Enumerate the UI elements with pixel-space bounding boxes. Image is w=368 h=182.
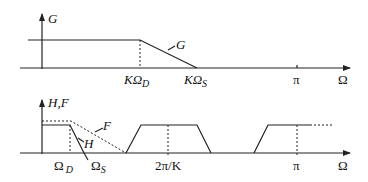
pi-label-bottom: π <box>293 158 300 173</box>
omega-s-label: ΩS <box>91 158 106 175</box>
g-curve-label: G <box>176 37 186 52</box>
top-plot: G G KΩD KΩS π Ω <box>20 11 350 89</box>
k-omega-d-label: KΩD <box>123 72 150 89</box>
g-label-leader <box>168 46 175 50</box>
omega-s-leader <box>84 153 88 160</box>
bottom-plot: H,F F H ΩD ΩS 2π/K π Ω <box>20 95 350 175</box>
two-pi-over-k-label: 2π/K <box>155 158 182 173</box>
h-curve-label: H <box>83 136 94 151</box>
g-curve <box>28 40 197 68</box>
f-curve-label: F <box>102 118 112 133</box>
bottom-x-axis-label: Ω <box>338 158 348 173</box>
top-y-axis-label: G <box>48 11 58 26</box>
h-curve <box>42 125 84 153</box>
diagram-canvas: G G KΩD KΩS π Ω H,F F H ΩD ΩS 2π/K π Ω <box>0 0 368 182</box>
f-label-leader <box>95 128 103 132</box>
bottom-y-axis-label: H,F <box>47 95 70 110</box>
h-image-3 <box>254 125 312 153</box>
pi-label-top: π <box>293 72 300 87</box>
top-x-axis-label: Ω <box>338 72 348 87</box>
omega-d-label: ΩD <box>54 158 74 175</box>
k-omega-s-label: KΩS <box>183 72 207 89</box>
